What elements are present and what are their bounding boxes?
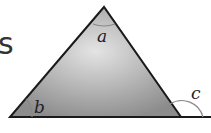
angle-b-label: b — [34, 97, 45, 117]
triangle-diagram: s a b c — [0, 0, 211, 133]
angle-c-label: c — [191, 83, 201, 103]
angle-a-label: a — [97, 26, 107, 46]
partial-text: s — [0, 26, 14, 61]
